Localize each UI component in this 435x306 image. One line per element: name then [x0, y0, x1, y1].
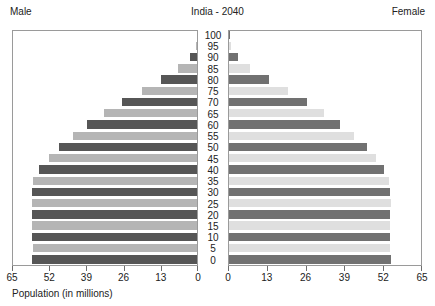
female-bar-age-25 [229, 199, 391, 207]
female-bar-age-0 [229, 255, 391, 263]
x-tick-label-52: 52 [378, 272, 389, 283]
table-row [229, 220, 421, 231]
age-tick-label-55: 55 [198, 131, 228, 142]
x-tick-label-26: 26 [118, 272, 129, 283]
x-tick-label-0: 0 [225, 272, 231, 283]
table-row [229, 209, 421, 220]
table-row [13, 209, 197, 220]
age-tick-label-35: 35 [198, 176, 228, 187]
table-row [13, 108, 197, 119]
female-bar-age-65 [229, 109, 324, 117]
table-row [229, 141, 421, 152]
age-tick-label-10: 10 [198, 232, 228, 243]
male-bar-age-20 [32, 210, 197, 218]
age-tick-label-40: 40 [198, 165, 228, 176]
female-bar-age-10 [229, 233, 390, 241]
x-tick-label-52: 52 [44, 272, 55, 283]
table-row [13, 85, 197, 96]
age-tick-label-90: 90 [198, 52, 228, 63]
table-row [229, 74, 421, 85]
male-bar-age-45 [49, 154, 198, 162]
male-plot-area [12, 30, 198, 266]
female-bar-age-15 [229, 221, 390, 229]
male-bar-age-0 [32, 255, 197, 263]
male-bar-age-5 [33, 244, 197, 252]
x-tick-label-39: 39 [81, 272, 92, 283]
x-tick-label-39: 39 [339, 272, 350, 283]
female-bar-age-55 [229, 132, 354, 140]
male-bar-age-85 [178, 64, 197, 72]
x-tick [12, 266, 13, 271]
table-row [229, 85, 421, 96]
x-tick [421, 266, 422, 271]
age-tick-label-25: 25 [198, 199, 228, 210]
age-tick-label-45: 45 [198, 154, 228, 165]
female-bar-age-30 [229, 188, 390, 196]
table-row [229, 186, 421, 197]
table-row [13, 175, 197, 186]
table-row [229, 96, 421, 107]
male-bar-age-90 [190, 53, 197, 61]
age-tick-label-60: 60 [198, 120, 228, 131]
table-row [13, 130, 197, 141]
x-tick [383, 266, 384, 271]
x-tick [228, 266, 229, 271]
table-row [229, 108, 421, 119]
table-row [13, 153, 197, 164]
male-bar-age-25 [32, 199, 197, 207]
table-row [229, 63, 421, 74]
table-row [229, 153, 421, 164]
x-tick-label-26: 26 [300, 272, 311, 283]
table-row [229, 164, 421, 175]
table-row [229, 30, 421, 40]
table-row [229, 175, 421, 186]
table-row [229, 51, 421, 62]
female-bar-age-90 [229, 53, 238, 61]
male-bar-age-60 [87, 120, 197, 128]
table-row [229, 231, 421, 242]
male-bar-age-80 [161, 75, 197, 83]
female-side-label: Female [392, 6, 425, 17]
male-bar-age-30 [32, 188, 197, 196]
x-axis-caption: Population (in millions) [12, 288, 113, 299]
female-bar-age-85 [229, 64, 250, 72]
male-bar-age-70 [122, 98, 197, 106]
female-bar-age-75 [229, 87, 288, 95]
male-bar-age-15 [32, 221, 197, 229]
table-row [229, 254, 421, 265]
x-tick-label-65: 65 [6, 272, 17, 283]
female-bar-age-50 [229, 143, 367, 151]
female-bar-age-40 [229, 165, 384, 173]
age-tick-label-50: 50 [198, 142, 228, 153]
female-bar-age-70 [229, 98, 307, 106]
male-x-axis: 65523926130 [12, 266, 198, 288]
age-tick-label-5: 5 [198, 243, 228, 254]
age-tick-label-20: 20 [198, 210, 228, 221]
table-row [13, 186, 197, 197]
age-axis-labels: 0510152025303540455055606570758085909510… [198, 30, 228, 266]
x-tick-label-65: 65 [416, 272, 427, 283]
female-bar-age-60 [229, 120, 340, 128]
table-row [13, 254, 197, 265]
female-bar-age-20 [229, 210, 390, 218]
table-row [229, 40, 421, 51]
table-row [13, 242, 197, 253]
male-bar-rows [13, 31, 197, 265]
male-bar-age-40 [39, 165, 197, 173]
age-tick-label-100: 100 [198, 30, 228, 41]
age-tick-label-65: 65 [198, 109, 228, 120]
female-bar-rows [229, 31, 421, 265]
table-row [13, 164, 197, 175]
male-bar-age-65 [104, 109, 197, 117]
age-tick-label-70: 70 [198, 97, 228, 108]
table-row [13, 220, 197, 231]
x-tick [161, 266, 162, 271]
female-bar-age-45 [229, 154, 376, 162]
female-bar-age-35 [229, 177, 389, 185]
x-tick-label-13: 13 [261, 272, 272, 283]
table-row [13, 30, 197, 40]
female-x-axis: 01326395265 [228, 266, 422, 288]
age-tick-label-0: 0 [198, 255, 228, 266]
table-row [13, 74, 197, 85]
x-tick [124, 266, 125, 271]
